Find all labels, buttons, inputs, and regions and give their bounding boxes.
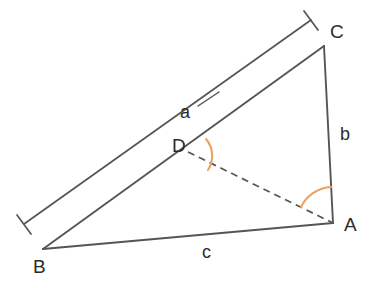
vertex-joints <box>42 45 334 250</box>
angle-arc-a <box>301 187 331 207</box>
measure-line-a-group <box>17 11 318 234</box>
angle-arc-d <box>206 139 212 170</box>
side-label-c: c <box>202 243 211 261</box>
geometry-canvas <box>0 0 379 288</box>
measure-tick-start-icon <box>17 215 31 234</box>
side-label-b: b <box>340 125 350 143</box>
cevian-da <box>188 152 333 223</box>
vertex-joint-b <box>42 248 44 250</box>
side-label-a: a <box>180 103 190 121</box>
geometry-diagram: A B C D a b c <box>0 0 379 288</box>
measure-line-a <box>24 20 311 224</box>
vertex-label-c: C <box>330 22 344 41</box>
vertex-label-d: D <box>172 136 186 155</box>
side-ab <box>43 223 333 249</box>
vertex-joint-c <box>323 45 325 47</box>
vertex-joint-a <box>332 222 334 224</box>
side-ca <box>324 46 333 223</box>
vertex-label-a: A <box>344 215 357 234</box>
vertex-label-b: B <box>33 257 46 276</box>
measure-tick-end-icon <box>304 11 318 30</box>
